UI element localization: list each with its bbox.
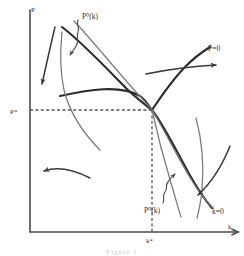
k-dot-zero-nullcline [62, 27, 212, 208]
upper-label-leader-tail [70, 44, 77, 55]
k-dot-zero-label: k̇=0 [212, 206, 224, 216]
trajectory-lower-left [44, 169, 90, 178]
p-dot-zero-label: Ṗ=0 [208, 44, 220, 53]
y-axis-label: P [31, 6, 35, 14]
right-thin-branch [196, 118, 203, 218]
x-axis-label: k [228, 223, 232, 231]
p-dot-zero-nullcline [60, 47, 210, 110]
figure-canvas: P k P* k* P⁰(k) P⁰(k) Ṗ=0 k̇=0 [0, 0, 244, 256]
lower-saddle-path [152, 110, 181, 217]
lower-label-leader [163, 182, 168, 203]
k-star-label: k* [146, 237, 154, 245]
trajectory-upper-left [42, 27, 55, 84]
phase-diagram-svg: P k P* k* P⁰(k) P⁰(k) Ṗ=0 k̇=0 [0, 0, 244, 256]
figure-caption: Figure 1 [0, 248, 244, 256]
p-star-label: P* [10, 108, 18, 116]
lower-saddle-path-label: P⁰(k) [144, 206, 160, 215]
upper-saddle-path-label: P⁰(k) [82, 12, 98, 21]
